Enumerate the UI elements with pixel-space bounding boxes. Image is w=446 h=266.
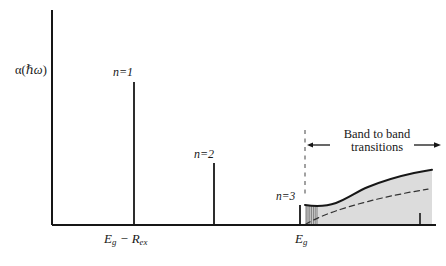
eg-rex-base1: E — [104, 231, 112, 246]
eg-rex-base2: R — [132, 231, 140, 246]
band-to-band-line1: Band to band — [344, 127, 411, 141]
x-tick-label-eg: Eg — [295, 232, 307, 248]
band-to-band-annotation: Band to band transitions — [329, 128, 425, 154]
x-tick-label-eg-minus-rex: Eg − Rex — [104, 232, 147, 248]
exciton-absorption-figure: α(ℏω) n=1 n=2 n=3 Eg − Rex Eg Band to ba… — [0, 0, 446, 266]
eg-sub: g — [303, 237, 307, 247]
band-to-band-shaded-region — [305, 170, 432, 225]
exciton-label-n3: n=3 — [276, 190, 295, 202]
eg-rex-minus: − — [116, 231, 131, 246]
y-axis-label: α(ℏω) — [15, 64, 47, 77]
exciton-label-n1: n=1 — [113, 66, 133, 79]
band-to-band-line2: transitions — [329, 141, 425, 154]
eg-base: E — [295, 231, 303, 246]
exciton-label-n2: n=2 — [194, 148, 214, 161]
eg-hatching — [306, 206, 317, 225]
eg-rex-sub2: ex — [140, 237, 148, 247]
y-axis-close-paren: ) — [43, 63, 47, 77]
band-to-band-arrow-left — [307, 142, 330, 147]
y-axis-hbar: ℏ — [26, 63, 34, 77]
y-axis-omega: ω — [34, 63, 43, 77]
